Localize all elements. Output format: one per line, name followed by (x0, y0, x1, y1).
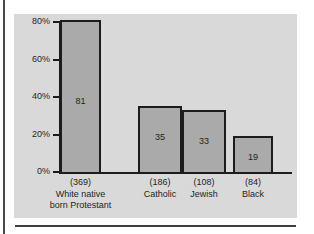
x-category-label: (369) White native born Protestant (36, 177, 126, 212)
y-tick-label: 0% (14, 166, 50, 177)
y-tick-label-text: 40% (14, 91, 50, 101)
y-tick-label: 20% (14, 129, 50, 140)
bar-value-label: 81 (60, 96, 101, 106)
bar-value-label: 33 (182, 136, 226, 146)
bottom-horizontal-rule (15, 225, 296, 227)
bar-value-label: 19 (233, 152, 273, 162)
y-tick-label: 60% (14, 54, 50, 65)
y-tick-label-text: 80% (14, 16, 50, 26)
y-tick-label: 40% (14, 91, 50, 102)
bar-value-label: 35 (138, 132, 182, 142)
y-tick-label-text: 0% (14, 166, 50, 176)
y-tick-label: 80% (14, 16, 50, 27)
bar-chart: 0%20%40%60%80% 81353319 (369) White nati… (0, 0, 314, 234)
x-category-label: (84) Black (208, 177, 298, 200)
y-tick-label-text: 20% (14, 129, 50, 139)
y-tick-label-text: 60% (14, 54, 50, 64)
